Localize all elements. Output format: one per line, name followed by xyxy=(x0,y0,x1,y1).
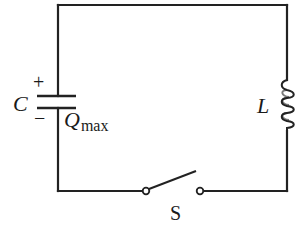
switch xyxy=(143,171,204,194)
capacitor-minus-sign: − xyxy=(34,108,45,128)
inductor-label: L xyxy=(257,95,269,117)
switch-arm xyxy=(149,171,196,189)
switch-terminal-right xyxy=(197,188,204,195)
capacitor-label: C xyxy=(13,93,28,115)
charge-label: Qmax xyxy=(64,109,108,131)
switch-label: S xyxy=(170,203,181,223)
charge-symbol: Q xyxy=(64,107,80,132)
switch-terminal-left xyxy=(143,188,150,195)
inductor xyxy=(282,80,294,131)
charge-subscript: max xyxy=(81,117,109,134)
capacitor-plus-sign: + xyxy=(33,72,44,92)
circuit-diagram: C + − Qmax L S xyxy=(0,0,296,230)
